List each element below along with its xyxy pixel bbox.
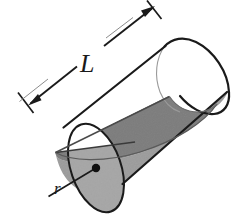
cylinder-diagram-canvas: r L [0, 0, 248, 224]
length-dimension: L [18, 1, 162, 114]
radius-label: r [54, 179, 61, 198]
center-dot [92, 164, 100, 172]
length-label: L [79, 49, 94, 78]
length-leader-line-lower [20, 79, 49, 102]
cylinder-group: r L [18, 1, 235, 220]
cylinder-figure: r L [0, 0, 248, 224]
